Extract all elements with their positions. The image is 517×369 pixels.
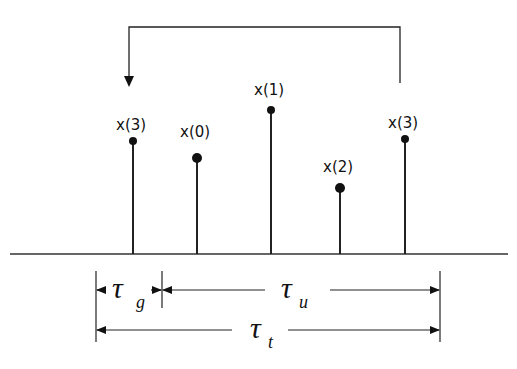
sample-stem-x2: x(2) (323, 158, 353, 254)
sample-label: x(0) (180, 123, 210, 141)
sample-label: x(3) (116, 116, 146, 134)
sample-stem-x0: x(0) (180, 123, 210, 254)
arrow-down-icon (124, 76, 134, 87)
tau-u-subscript: u (299, 292, 308, 312)
sample-stem-x3: x(3) (388, 114, 418, 254)
sample-label: x(3) (388, 114, 418, 132)
cyclic-copy-arrow (124, 27, 400, 87)
tau-u-symbol: τ (281, 271, 293, 304)
sample-stem-x3-prefix: x(3) (116, 116, 146, 254)
sample-label: x(1) (254, 81, 284, 99)
sample-label: x(2) (323, 158, 353, 176)
sample-stem-x1: x(1) (254, 81, 284, 254)
tau-g-symbol: τ (112, 271, 124, 304)
tau-g-subscript: g (136, 292, 145, 312)
cyclic-prefix-diagram: x(3) x(0) x(1) x(2) x(3) τ g τ u (0, 0, 517, 369)
tau-t-subscript: t (268, 332, 274, 352)
tau-t-symbol: τ (250, 311, 262, 344)
